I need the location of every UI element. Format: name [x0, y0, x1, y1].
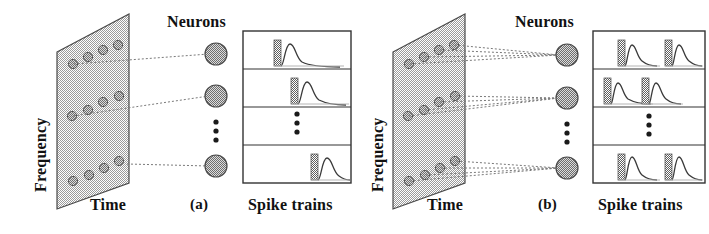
neuron-1: [556, 44, 578, 66]
neuron-1: [205, 43, 227, 65]
neuron-2: [205, 85, 227, 107]
spike-row-ellipsis-icon: [294, 111, 299, 134]
neuron-n: [205, 155, 227, 177]
panel-b: Frequency Time Neurons (b) Spike trains: [355, 0, 709, 234]
spike-trains-label: Spike trains: [248, 196, 333, 214]
spike-row-ellipsis-icon: [646, 113, 651, 136]
panel-caption-a: (a): [190, 196, 208, 213]
neurons-label: Neurons: [515, 13, 574, 31]
neurons-label: Neurons: [167, 13, 226, 31]
axis-label-frequency: Frequency: [369, 118, 387, 192]
neuron-group: [556, 44, 578, 179]
neuron-ellipsis-icon: [213, 119, 218, 142]
neuron-n: [556, 157, 578, 179]
spike-train-box: [593, 31, 705, 183]
axis-label-time: Time: [427, 196, 463, 214]
neuron-group: [205, 43, 227, 177]
spike-train-box: [243, 31, 351, 183]
neuron-ellipsis-icon: [564, 121, 569, 144]
axis-label-time: Time: [90, 196, 126, 214]
panel-caption-b: (b): [538, 196, 557, 213]
axis-label-frequency: Frequency: [32, 118, 50, 192]
spike-trains-label: Spike trains: [598, 196, 683, 214]
neuron-2: [556, 87, 578, 109]
panel-a: Frequency Time Neurons (a) Spike trains: [0, 0, 354, 234]
figure-root: Frequency Time Neurons (a) Spike trains: [0, 0, 709, 234]
